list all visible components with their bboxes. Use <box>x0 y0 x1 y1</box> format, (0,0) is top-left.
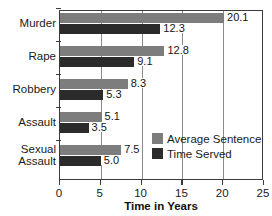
x-axis-tick-label: 20 <box>216 187 229 199</box>
category-label-line: Assault <box>18 155 56 167</box>
category-label: SexualAssault <box>18 143 56 167</box>
bar <box>60 156 101 166</box>
bar-group: 8.35.3 <box>60 79 262 101</box>
x-axis-tick-label: 0 <box>56 187 62 199</box>
bar <box>60 90 103 100</box>
x-axis-title: Time in Years <box>59 200 263 212</box>
category-tick <box>56 74 61 75</box>
bar <box>60 57 134 67</box>
bar-value-label: 8.3 <box>128 78 146 88</box>
legend-swatch-time-served <box>152 148 163 159</box>
bar <box>60 24 160 34</box>
category-tick <box>56 107 61 108</box>
bar-group: 20.112.3 <box>60 13 262 35</box>
legend-swatch-average-sentence <box>152 133 163 144</box>
x-axis-tick-label: 5 <box>97 187 103 199</box>
legend-item-time-served: Time Served <box>152 146 261 161</box>
category-label-line: Assault <box>18 116 56 128</box>
x-axis-tick-label: 25 <box>257 187 270 199</box>
category-tick <box>56 140 61 141</box>
legend-label-average-sentence: Average Sentence <box>167 133 261 145</box>
legend-item-average-sentence: Average Sentence <box>152 131 261 146</box>
category-label: Robbery <box>13 83 56 95</box>
bar-chart: 20.112.312.89.18.35.35.13.57.55.0 Murder… <box>0 0 272 216</box>
bar-value-label: 12.3 <box>160 23 184 33</box>
x-axis-tick <box>59 180 60 185</box>
bar <box>60 123 89 133</box>
x-axis-tick <box>100 180 101 185</box>
bar-value-label: 9.1 <box>134 56 152 66</box>
x-axis-tick <box>141 180 142 185</box>
category-label: Assault <box>18 116 56 128</box>
x-axis-tick-label: 15 <box>175 187 188 199</box>
category-label-line: Robbery <box>13 83 56 95</box>
category-label: Rape <box>29 50 57 62</box>
x-axis-tick <box>222 180 223 185</box>
x-axis-tick-label: 10 <box>134 187 147 199</box>
bar-value-label: 3.5 <box>89 122 107 132</box>
bar-value-label: 12.8 <box>164 45 188 55</box>
bar-value-label: 7.5 <box>121 144 139 154</box>
bar-value-label: 5.0 <box>101 155 119 165</box>
bar-value-label: 20.1 <box>224 12 248 22</box>
bar <box>60 13 224 23</box>
category-label: Murder <box>20 17 56 29</box>
x-axis-tick <box>181 180 182 185</box>
chart-legend: Average Sentence Time Served <box>152 131 261 161</box>
category-label-line: Sexual <box>18 143 56 155</box>
category-label-line: Rape <box>29 50 57 62</box>
category-tick <box>56 8 61 9</box>
x-axis-tick <box>263 180 264 185</box>
category-tick <box>56 41 61 42</box>
bar-group: 12.89.1 <box>60 46 262 68</box>
bar-value-label: 5.3 <box>103 89 121 99</box>
bar-value-label: 5.1 <box>102 111 120 121</box>
category-label-line: Murder <box>20 17 56 29</box>
legend-label-time-served: Time Served <box>167 148 232 160</box>
